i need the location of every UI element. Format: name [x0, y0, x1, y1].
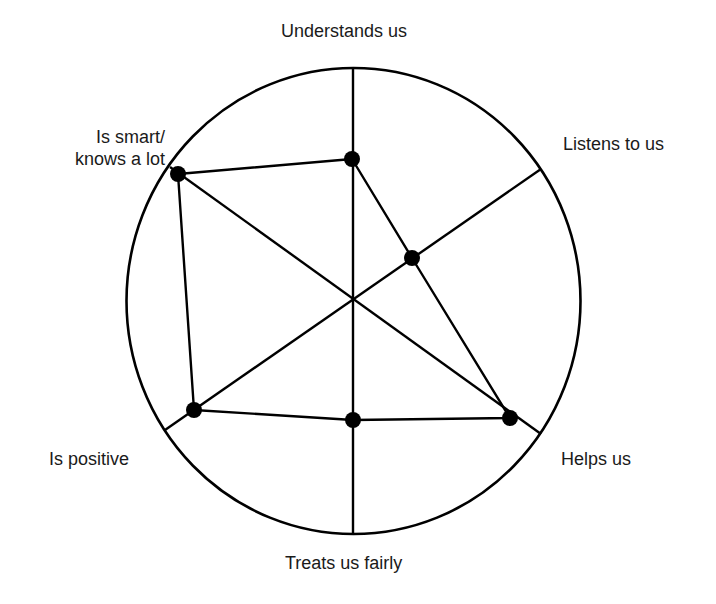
- point-treats: [345, 412, 361, 428]
- point-understands: [344, 151, 360, 167]
- label-smart: Is smart/ knows a lot: [60, 126, 165, 170]
- point-listens: [404, 250, 420, 266]
- label-smart-line1: Is smart/: [60, 126, 165, 148]
- label-understands: Understands us: [281, 20, 407, 42]
- label-smart-line2: knows a lot: [60, 148, 165, 170]
- point-positive: [186, 402, 202, 418]
- radar-diagram: [0, 0, 716, 604]
- label-listens: Listens to us: [563, 133, 664, 155]
- label-treats: Treats us fairly: [285, 552, 402, 574]
- label-positive: Is positive: [49, 448, 129, 470]
- point-helps: [502, 410, 518, 426]
- point-smart: [170, 166, 186, 182]
- profile-polygon: [178, 159, 510, 420]
- label-helps: Helps us: [561, 448, 631, 470]
